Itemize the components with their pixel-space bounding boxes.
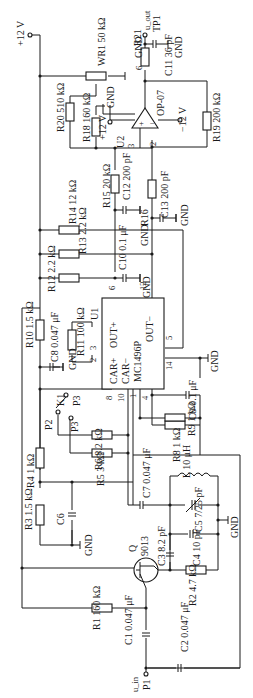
- resistor-r13: [59, 250, 79, 258]
- label-u1-outm: OUT−: [144, 315, 155, 342]
- label-gnd-u2: GND: [105, 86, 116, 108]
- label-r18: R18 160 kΩ: [81, 93, 92, 142]
- label-r4: R4 1 kΩ: [25, 454, 36, 488]
- label-c1: C1 0.047 μF: [123, 594, 134, 645]
- label-tp1: TP1: [151, 15, 162, 32]
- resistor-r8: [165, 414, 185, 421]
- label-c4: C4 10 pF: [191, 528, 202, 566]
- resistor-wr1: [86, 72, 106, 80]
- label-r10: R10 1.5 kΩ: [24, 301, 35, 348]
- label-pin2-u1: 2: [88, 358, 98, 362]
- label-q-part: 9013: [139, 536, 150, 556]
- label-u1-carm: CAR−: [120, 357, 131, 384]
- resistor-r14: [59, 226, 79, 234]
- label-u1-carp: CAR+: [108, 357, 119, 384]
- label-pin3: 3: [126, 144, 136, 148]
- label-r3: R3 1.5 kΩ: [23, 488, 34, 530]
- resistor-r16: [148, 180, 156, 198]
- label-r9: R9 1 kΩ: [186, 402, 197, 436]
- label-c8: C8 0.047 μF: [49, 311, 60, 362]
- resistor-r19: [203, 112, 211, 130]
- label-pin6: 6: [134, 66, 144, 70]
- label-p2: P2: [43, 419, 54, 430]
- label-l: L 10 μH: [181, 445, 192, 478]
- label-pin2: 2: [148, 142, 158, 146]
- resistor-r4: [36, 448, 44, 468]
- label-p3: P3: [71, 395, 82, 406]
- label-k1: K1: [55, 394, 66, 406]
- label-r21: R21: [132, 29, 143, 46]
- label-c7: C7 0.047 μF: [141, 447, 152, 498]
- label-pin1: 1: [128, 394, 138, 398]
- label-r13: R13 2.2 kΩ: [77, 207, 88, 254]
- label-r11: R11 100 kΩ: [75, 307, 86, 356]
- label-r1: R1 160 kΩ: [91, 586, 102, 630]
- label-gnd-c6: GND: [83, 534, 94, 556]
- circuit-schematic: + −: [0, 0, 253, 698]
- label-pin6-u1: 6: [107, 286, 117, 290]
- label-c3: C3 8.2 pF: [156, 526, 167, 566]
- resistor-r15: [111, 175, 119, 193]
- label-gnd-c13: GND: [179, 204, 190, 226]
- label-u1-outp: OUT+: [108, 321, 119, 348]
- label-c12: C12 200 pF: [121, 152, 132, 200]
- label-gnd-tank: GND: [229, 516, 240, 538]
- label-gnd-pin14: GND: [209, 350, 220, 372]
- label-p3b: P3: [69, 421, 80, 432]
- label-pin5: 5: [164, 336, 174, 340]
- label-q: Q: [127, 544, 138, 552]
- label-vpos-u2: +12 V: [97, 114, 108, 140]
- label-u2-part: OP-07: [155, 90, 166, 116]
- label-pin8: 8: [104, 396, 114, 400]
- label-pin3-u1: 3: [88, 346, 98, 350]
- label-pin12: 12: [138, 282, 148, 291]
- label-pin4: 4: [140, 395, 150, 400]
- label-gnd-c12: GND: [139, 224, 150, 246]
- label-pin10: 10: [116, 394, 126, 403]
- label-wr1: WR1 50 kΩ: [96, 17, 107, 66]
- label-r19: R19 200 kΩ: [211, 93, 222, 142]
- svg-text:+: +: [139, 118, 144, 128]
- label-c13: C13 200 pF: [159, 170, 170, 218]
- resistor-r20: [66, 103, 74, 121]
- terminal-uin: [144, 672, 148, 676]
- label-r15: R15 20 kΩ: [101, 164, 112, 208]
- label-u1: U1: [89, 308, 100, 320]
- label-p1: P1: [141, 679, 152, 690]
- label-c6: C6: [55, 513, 66, 525]
- label-u2: U2: [115, 136, 126, 148]
- label-r2: R2 4.7 kΩ: [187, 564, 198, 606]
- resistor-r12: [59, 274, 79, 282]
- resistor-r9: [165, 421, 185, 429]
- label-c5: C5 7/25 pF: [193, 487, 204, 532]
- label-gnd-c11: GND: [173, 36, 184, 58]
- resistor-r10: [36, 320, 44, 340]
- terminal-vpos: [28, 33, 32, 37]
- svg-text:−: −: [150, 118, 155, 128]
- label-r5: R5 3 kΩ: [95, 452, 106, 486]
- label-pin14: 14: [164, 361, 174, 370]
- label-r16: R16: [139, 209, 150, 226]
- label-c10: C10 0.1 μF: [117, 224, 128, 270]
- label-vneg: −12 V: [177, 106, 188, 132]
- label-r20: R20 510 kΩ: [55, 83, 66, 132]
- label-uin: u_in: [130, 676, 140, 692]
- label-vpos: +12 V: [15, 20, 26, 46]
- label-r12: R12 2.2 kΩ: [46, 245, 57, 292]
- resistor-r3: [36, 505, 44, 525]
- label-u1-part: MC1496P: [132, 340, 143, 382]
- label-c2: C2 0.047 μF: [179, 601, 190, 652]
